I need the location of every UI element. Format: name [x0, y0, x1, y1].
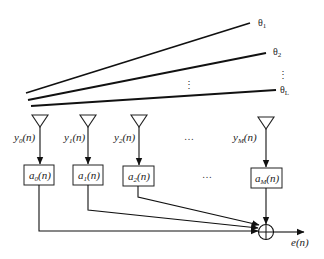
- horizontal-ellipsis-signals: …: [184, 131, 194, 142]
- antenna-icon: [131, 115, 147, 127]
- antenna-0: y0(n) a0(n): [13, 115, 54, 185]
- weight-label-aM: aM(n): [255, 172, 280, 186]
- antenna-icon: [258, 117, 274, 129]
- vertical-ellipsis-mid: ⋮: [184, 79, 194, 90]
- summing-connections: [39, 185, 266, 231]
- antenna-icon: [32, 115, 48, 127]
- antenna-2: y2(n) a2(n): [113, 115, 154, 186]
- ray-theta-1: [26, 23, 250, 93]
- weight-label-a1: a1(n): [78, 169, 100, 183]
- antenna-icon: [80, 115, 96, 127]
- weight-label-a0: a0(n): [29, 169, 51, 183]
- signal-label-y2: y2(n): [113, 131, 136, 145]
- theta-2-label: θ2: [273, 46, 282, 59]
- summing-junction: [259, 225, 274, 240]
- beamformer-diagram: θ1 θ2 ⋮ ⋮ θL y0(n) a0(n) y1(n) a1(n) y2(…: [0, 0, 324, 259]
- horizontal-ellipsis-weights: …: [202, 169, 212, 180]
- output-label: e(n): [291, 236, 309, 249]
- signal-label-yM: yM(n): [232, 131, 257, 145]
- antenna-1: y1(n) a1(n): [63, 115, 103, 185]
- theta-L-label: θL: [280, 84, 289, 97]
- weight-label-a2: a2(n): [128, 170, 150, 184]
- theta-1-label: θ1: [258, 17, 267, 30]
- vertical-ellipsis: ⋮: [278, 69, 288, 80]
- antenna-M: yM(n) aM(n): [232, 117, 282, 188]
- incident-rays: [26, 23, 276, 106]
- signal-label-y0: y0(n): [13, 131, 36, 145]
- signal-label-y1: y1(n): [63, 131, 86, 145]
